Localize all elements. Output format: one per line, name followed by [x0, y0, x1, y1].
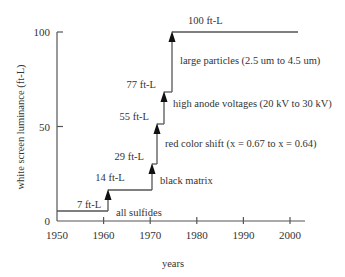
annotation-label: high anode voltages (20 kV to 30 kV) [173, 98, 332, 110]
step-value-label: 7 ft-L [77, 199, 101, 210]
step-value-label: 55 ft-L [120, 111, 149, 122]
annotation-label: black matrix [160, 175, 214, 186]
y-tick-label: 50 [39, 121, 51, 133]
x-tick-label: 1950 [46, 229, 69, 241]
annotation-label: red color shift (x = 0.67 to x = 0.64) [165, 138, 317, 150]
step-value-label: 100 ft-L [188, 15, 223, 26]
y-axis-title: white screen luminance (ft-L) [15, 64, 27, 190]
annotation-label: all sulfides [116, 207, 162, 218]
x-axis-title: years [162, 258, 184, 269]
step-value-label: 14 ft-L [95, 172, 124, 183]
y-tick-label: 100 [34, 26, 51, 38]
luminance-step-chart: 050100 195019601970198019902000 7 ft-L14… [0, 0, 345, 277]
annotation-label: large particles (2.5 um to 4.5 um) [180, 55, 321, 67]
x-tick-label: 1990 [232, 229, 255, 241]
x-tick-label: 1970 [139, 229, 162, 241]
x-tick-label: 1980 [186, 229, 209, 241]
y-ticks: 050100 [34, 26, 64, 227]
step-value-label: 77 ft-L [127, 79, 156, 90]
x-tick-label: 1960 [93, 229, 116, 241]
x-tick-label: 2000 [279, 229, 302, 241]
step-value-label: 29 ft-L [115, 151, 144, 162]
y-tick-label: 0 [45, 215, 51, 227]
